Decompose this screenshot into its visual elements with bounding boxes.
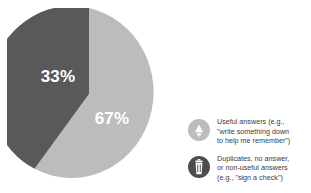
pie-chart-svg: 67% 33% (7, 8, 171, 180)
pie-label-useful-answers: 67% (95, 109, 130, 128)
legend-item-useful-answers[interactable]: Useful answers (e.g., "write something d… (188, 116, 311, 146)
legend-label-useful-answers: Useful answers (e.g., "write something d… (217, 116, 290, 146)
pie-label-non-useful-answers: 33% (41, 67, 76, 86)
legend-item-non-useful-answers[interactable]: Duplicates, no answer, or non-useful ans… (188, 153, 311, 183)
pie-chart-figure: 67% 33% Useful answers (e.g., "write som… (0, 0, 311, 193)
trash-can-icon (188, 156, 210, 178)
pie-chart: 67% 33% (7, 8, 171, 180)
chart-legend: Useful answers (e.g., "write something d… (188, 116, 311, 190)
legend-label-non-useful-answers: Duplicates, no answer, or non-useful ans… (217, 153, 289, 183)
lightbulb-icon (188, 119, 210, 141)
